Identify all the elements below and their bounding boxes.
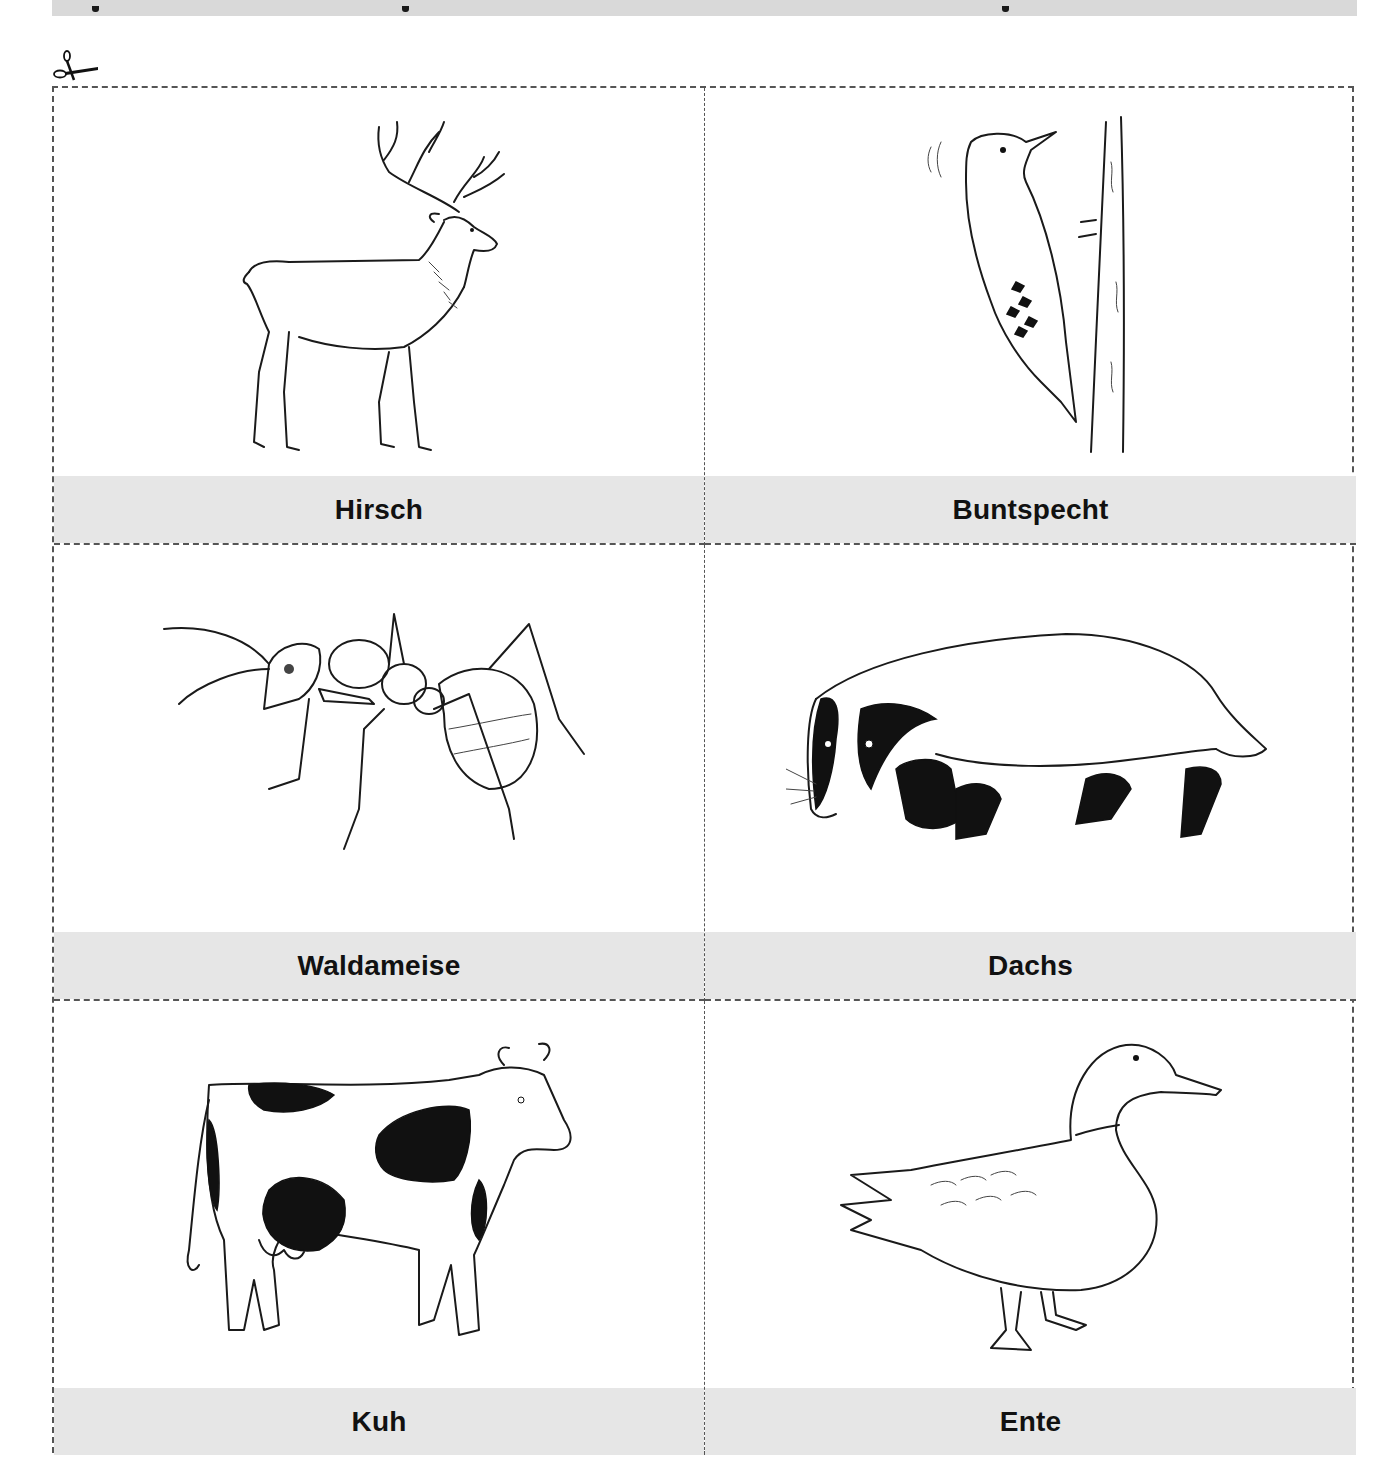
card-label-band: Buntspecht	[705, 476, 1356, 543]
deer-stag-icon	[54, 88, 704, 476]
title-glyph-fragment	[402, 6, 409, 12]
header-banner	[52, 0, 1357, 16]
card-hirsch: Hirsch	[54, 88, 705, 545]
card-kuh: Kuh	[54, 1001, 705, 1455]
card-label: Waldameise	[298, 950, 461, 982]
cow-icon	[54, 1001, 704, 1388]
scissors-icon	[52, 50, 102, 86]
title-glyph-fragment	[1002, 6, 1009, 12]
card-label: Dachs	[988, 950, 1073, 982]
card-label: Hirsch	[335, 494, 423, 526]
card-label: Buntspecht	[953, 494, 1109, 526]
card-ente: Ente	[705, 1001, 1356, 1455]
card-label-band: Kuh	[54, 1388, 704, 1455]
card-label-band: Waldameise	[54, 932, 704, 999]
card-label-band: Ente	[705, 1388, 1356, 1455]
card-buntspecht: Buntspecht	[705, 88, 1356, 545]
card-label-band: Dachs	[705, 932, 1356, 999]
card-waldameise: Waldameise	[54, 545, 705, 1001]
card-dachs: Dachs	[705, 545, 1356, 1001]
title-glyph-fragment	[92, 6, 99, 12]
card-label: Ente	[1000, 1406, 1061, 1438]
woodpecker-icon	[705, 88, 1356, 476]
duck-icon	[705, 1001, 1356, 1388]
badger-icon	[705, 545, 1356, 932]
card-label-band: Hirsch	[54, 476, 704, 543]
card-grid: Hirsch Buntspecht	[52, 86, 1354, 1453]
ant-icon	[54, 545, 704, 932]
card-label: Kuh	[351, 1406, 406, 1438]
